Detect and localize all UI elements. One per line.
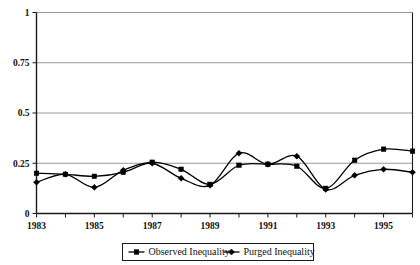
- data-point-s1-1985: [92, 174, 97, 179]
- x-axis-label-1983: 1983: [27, 221, 46, 231]
- data-point-s1-1996: [410, 149, 415, 154]
- x-axis-label-1985: 1985: [85, 221, 104, 231]
- y-axis-label-0: 0: [25, 209, 30, 219]
- data-point-s1-1994: [352, 158, 357, 163]
- legend-label-1: Observed Inequality: [149, 246, 230, 257]
- chart-legend[interactable]: Observed InequalityPurged Inequality: [123, 244, 315, 261]
- y-axis-label-3: 0.75: [13, 58, 30, 68]
- legend-label-2: Purged Inequality: [244, 246, 315, 257]
- y-axis-label-4: 1: [25, 8, 30, 18]
- x-axis-label-1989: 1989: [201, 221, 220, 231]
- data-point-s1-1983: [34, 171, 39, 176]
- data-point-s1-1995: [381, 147, 386, 152]
- y-axis-label-2: 0.5: [18, 108, 30, 118]
- data-point-s1-1992: [295, 164, 300, 169]
- x-axis-label-1991: 1991: [258, 221, 277, 231]
- x-axis-label-1993: 1993: [316, 221, 335, 231]
- chart-container: 00.250.50.751 19831985198719891991199319…: [0, 0, 420, 265]
- line-chart: 00.250.50.751 19831985198719891991199319…: [0, 0, 420, 265]
- legend-marker-square-icon: [134, 250, 139, 255]
- y-axis-label-1: 0.25: [13, 159, 30, 169]
- x-axis-label-1987: 1987: [143, 221, 162, 231]
- x-axis-label-1995: 1995: [374, 221, 393, 231]
- data-point-s1-1988: [179, 167, 184, 172]
- data-point-s1-1990: [237, 163, 242, 168]
